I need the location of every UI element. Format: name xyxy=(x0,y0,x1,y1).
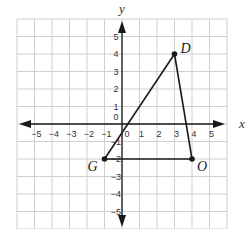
y-axis-down-arrow-icon xyxy=(118,215,126,227)
y-tick-label: 2 xyxy=(113,84,118,94)
point-G xyxy=(102,156,108,162)
x-tick-label: −3 xyxy=(66,129,76,139)
y-tick-label: −5 xyxy=(111,207,121,217)
x-axis-left-arrow-icon xyxy=(19,120,31,128)
x-tick-label: 5 xyxy=(209,129,214,139)
point-label-G: G xyxy=(88,159,98,174)
point-D xyxy=(172,51,178,57)
y-tick-label: 1 xyxy=(113,102,118,112)
x-tick-label: −2 xyxy=(84,129,94,139)
x-tick-label: −4 xyxy=(49,129,59,139)
y-tick-label: −4 xyxy=(111,189,121,199)
x-tick-label: 2 xyxy=(156,129,161,139)
x-tick-label-zero: 0 xyxy=(124,129,129,139)
y-tick-label: −3 xyxy=(111,172,121,182)
y-axis-label: y xyxy=(117,1,125,16)
x-axis-label: x xyxy=(238,116,245,131)
origin-label: 0 xyxy=(113,112,118,122)
x-tick-label: 4 xyxy=(191,129,196,139)
y-tick-label: 3 xyxy=(113,67,118,77)
coordinate-grid: xy−5−4−3−2−1123450054321−1−2−3−4−5DGO xyxy=(0,0,250,229)
x-tick-label: −5 xyxy=(31,129,41,139)
y-tick-label: 5 xyxy=(113,32,118,42)
x-tick-label: 1 xyxy=(139,129,144,139)
x-axis-right-arrow-icon xyxy=(213,120,225,128)
y-axis-up-arrow-icon xyxy=(118,21,126,33)
y-tick-label: 4 xyxy=(113,49,118,59)
point-O xyxy=(189,156,195,162)
point-label-D: D xyxy=(180,41,191,56)
x-tick-label: 3 xyxy=(174,129,179,139)
coordinate-plane-figure: xy−5−4−3−2−1123450054321−1−2−3−4−5DGO xyxy=(0,0,250,229)
point-label-O: O xyxy=(197,159,207,174)
